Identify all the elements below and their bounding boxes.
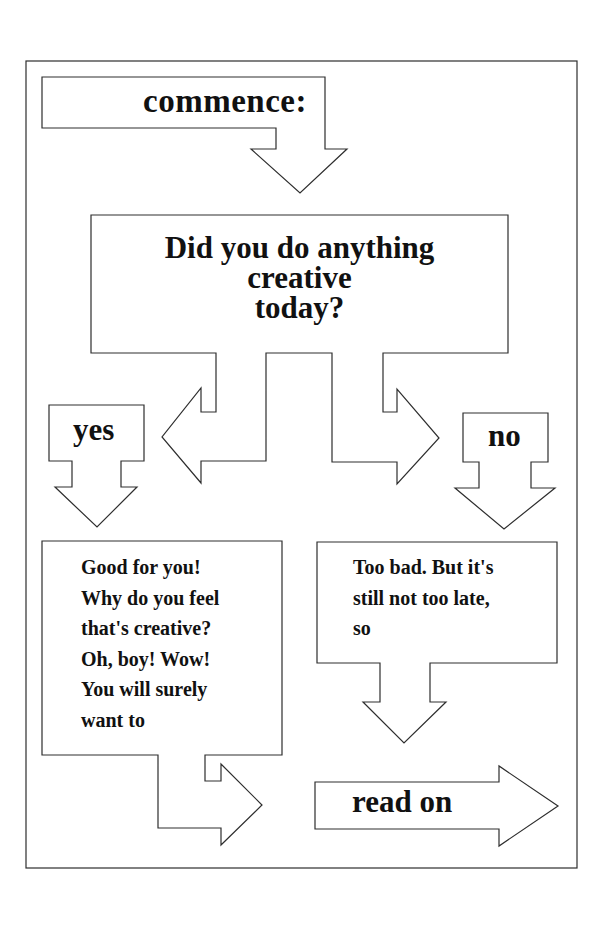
yes-response-text: Good for you! Why do you feel that's cre…	[81, 552, 219, 736]
flowchart-canvas	[0, 0, 613, 937]
yes-response-line: Why do you feel	[81, 583, 219, 614]
no-response-line: Too bad. But it's	[353, 552, 493, 583]
yes-response-line: Oh, boy! Wow!	[81, 644, 219, 675]
question-text: Did you do anything creative today?	[91, 233, 508, 323]
yes-label: yes	[73, 412, 114, 448]
question-line: Did you do anything	[91, 233, 508, 263]
commence-label: commence:	[143, 83, 307, 120]
no-response-text: Too bad. But it's still not too late, so	[353, 552, 493, 644]
no-response-line: still not too late,	[353, 583, 493, 614]
question-line: creative	[91, 263, 508, 293]
yes-response-line: Good for you!	[81, 552, 219, 583]
question-line: today?	[91, 293, 508, 323]
yes-response-line: that's creative?	[81, 613, 219, 644]
yes-response-line: You will surely	[81, 674, 219, 705]
no-response-line: so	[353, 613, 493, 644]
read-on-label: read on	[352, 784, 452, 820]
no-label: no	[488, 418, 521, 454]
yes-response-line: want to	[81, 705, 219, 736]
